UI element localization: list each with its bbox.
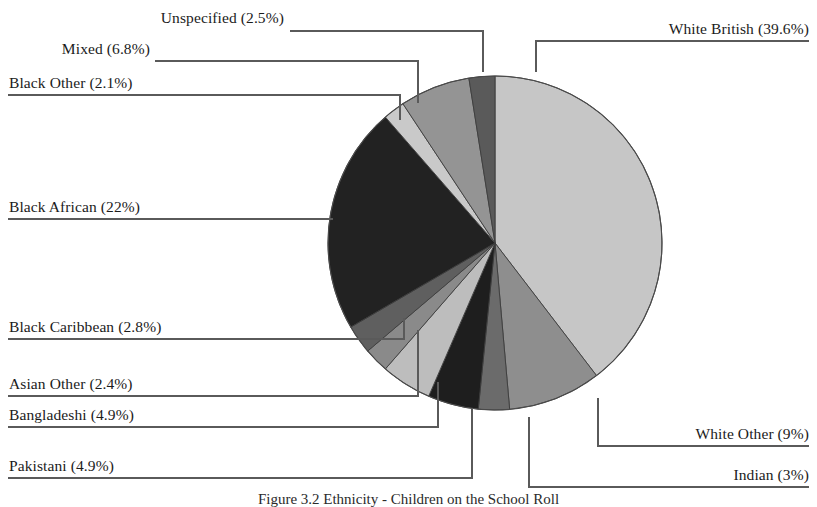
leader-mixed: [155, 61, 418, 103]
slice-label-white-british: White British (39.6%): [669, 21, 809, 37]
leader-white-british: [536, 41, 809, 72]
slice-label-white-other: White Other (9%): [696, 426, 810, 442]
slice-label-black-african: Black African (22%): [9, 199, 140, 215]
slice-label-pakistani: Pakistani (4.9%): [9, 458, 114, 474]
leader-black-other: [8, 95, 400, 120]
slice-label-indian: Indian (3%): [733, 467, 809, 483]
slice-label-bangladeshi: Bangladeshi (4.9%): [9, 407, 134, 423]
slice-label-asian-other: Asian Other (2.4%): [9, 376, 133, 392]
figure-caption: Figure 3.2 Ethnicity - Children on the S…: [0, 491, 817, 507]
slice-label-unspecified: Unspecified (2.5%): [161, 10, 284, 26]
slice-label-black-caribbean: Black Caribbean (2.8%): [9, 319, 161, 335]
slice-label-mixed: Mixed (6.8%): [62, 41, 150, 57]
pie-slices: White British (39.6%)White Other (9%)Ind…: [328, 76, 662, 410]
leader-unspecified: [290, 31, 483, 72]
slice-label-black-other: Black Other (2.1%): [9, 75, 133, 91]
